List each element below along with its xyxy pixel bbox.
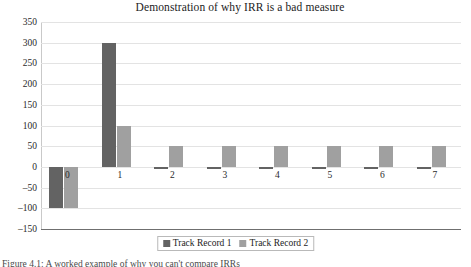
bar[interactable] <box>417 167 431 169</box>
y-tick-label: 150 <box>5 100 37 110</box>
y-tick-label: 200 <box>5 79 37 89</box>
bar[interactable] <box>259 167 273 169</box>
legend-label: Track Record 2 <box>250 238 309 248</box>
bar[interactable] <box>379 146 393 167</box>
x-tick-label: 7 <box>409 170 462 180</box>
chart-title: Demonstration of why IRR is a bad measur… <box>40 1 440 13</box>
legend-entry[interactable]: Track Record 2 <box>240 238 309 248</box>
bar-group: 2 <box>146 22 199 229</box>
bar[interactable] <box>312 167 326 169</box>
bar[interactable] <box>364 167 378 169</box>
y-tick-label: 100 <box>5 121 37 131</box>
y-tick-label: 300 <box>5 38 37 48</box>
x-tick-label: 5 <box>304 170 357 180</box>
legend-swatch-icon <box>240 240 247 247</box>
bar[interactable] <box>274 146 288 167</box>
plot-area: 01234567 <box>41 22 461 229</box>
x-tick-label: 3 <box>199 170 252 180</box>
bar[interactable] <box>327 146 341 167</box>
y-axis-tick-labels: 350300250200150100500–50–100–150 <box>0 22 37 229</box>
legend-entry[interactable]: Track Record 1 <box>163 238 232 248</box>
bar[interactable] <box>222 146 236 167</box>
x-tick-label: 0 <box>41 170 94 180</box>
bar-group: 1 <box>94 22 147 229</box>
bar[interactable] <box>154 167 168 169</box>
bar-group: 0 <box>41 22 94 229</box>
legend-swatch-icon <box>163 240 170 247</box>
x-tick-label: 4 <box>251 170 304 180</box>
x-tick-label: 1 <box>94 170 147 180</box>
bar[interactable] <box>169 146 183 167</box>
figure-container: Demonstration of why IRR is a bad measur… <box>0 0 471 267</box>
bar-group: 6 <box>356 22 409 229</box>
chart-legend: Track Record 1Track Record 2 <box>157 236 315 251</box>
y-tick-label: –100 <box>5 203 37 213</box>
bar[interactable] <box>117 126 131 167</box>
y-tick-label: 50 <box>5 141 37 151</box>
x-tick-label: 2 <box>146 170 199 180</box>
figure-caption: Figure 4.1: A worked example of why you … <box>2 259 240 267</box>
bar-group: 5 <box>304 22 357 229</box>
y-tick-label: 0 <box>5 162 37 172</box>
y-tick-label: –50 <box>5 183 37 193</box>
legend-label: Track Record 1 <box>173 238 232 248</box>
y-tick-label: 250 <box>5 58 37 68</box>
bar[interactable] <box>207 167 221 169</box>
x-tick-label: 6 <box>356 170 409 180</box>
bar[interactable] <box>432 146 446 167</box>
bar-group: 4 <box>251 22 304 229</box>
y-tick-label: –150 <box>5 224 37 234</box>
bar-group: 7 <box>409 22 462 229</box>
gridline--150 <box>41 229 461 230</box>
bar[interactable] <box>102 43 116 167</box>
y-tick-label: 350 <box>5 17 37 27</box>
bar-group: 3 <box>199 22 252 229</box>
